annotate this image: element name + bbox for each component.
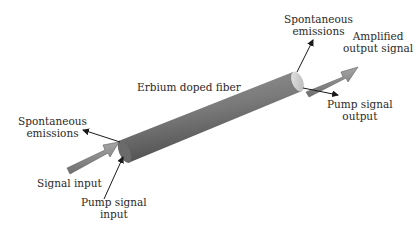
spont-emission-right-arrow-icon bbox=[297, 40, 313, 72]
spont-emission-left-arrow-icon bbox=[83, 130, 120, 142]
signal-input-label: Signal input bbox=[37, 177, 102, 189]
amplified-output-label: Amplified output signal bbox=[343, 30, 413, 54]
pump-input-arrow-icon bbox=[104, 157, 123, 199]
pump-input-label: Pump signal input bbox=[81, 196, 147, 220]
amplified-output-arrow-icon bbox=[306, 67, 358, 97]
edfa-diagram: Erbium doped fiber Spontaneous emissions… bbox=[0, 0, 419, 229]
pump-output-label: Pump signal output bbox=[327, 98, 393, 122]
fiber-label: Erbium doped fiber bbox=[137, 81, 241, 93]
spont-emissions-left-label: Spontaneous emissions bbox=[18, 115, 87, 139]
signal-input-arrow-icon bbox=[67, 142, 119, 174]
